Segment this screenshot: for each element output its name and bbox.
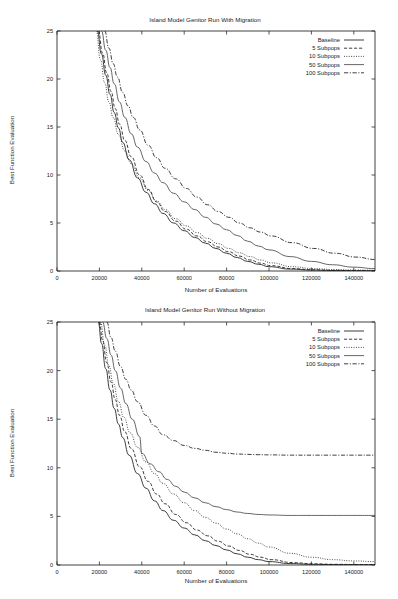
x-tick-label: 100000 bbox=[260, 275, 279, 281]
legend-label: 50 Subpops bbox=[309, 353, 340, 359]
y-tick-label: 0 bbox=[50, 562, 53, 568]
x-tick-label: 20000 bbox=[92, 275, 108, 281]
x-tick-label: 60000 bbox=[176, 569, 192, 575]
legend-bottom: Baseline5 Subpops10 Subpops50 Subpops100… bbox=[306, 328, 364, 367]
x-tick-label: 40000 bbox=[134, 569, 150, 575]
y-tick-label: 5 bbox=[50, 513, 53, 519]
x-tick-label: 100000 bbox=[260, 569, 279, 575]
y-tick-label: 5 bbox=[50, 220, 53, 226]
chart-svg-top: Island Model Genitor Run With Migration … bbox=[0, 0, 398, 299]
y-tick-label: 15 bbox=[47, 416, 53, 422]
x-tick-label: 80000 bbox=[219, 275, 235, 281]
y-tick-label: 10 bbox=[47, 465, 53, 471]
chart-svg-bottom: Island Model Genitor Run Without Migrati… bbox=[0, 295, 398, 599]
legend-label: 100 Subpops bbox=[306, 361, 340, 367]
x-tick-label: 140000 bbox=[344, 569, 363, 575]
chart-title-bottom: Island Model Genitor Run Without Migrati… bbox=[145, 306, 266, 313]
y-tick-label: 25 bbox=[47, 28, 53, 34]
x-axis-label-top: Number of Evaluations bbox=[185, 286, 248, 293]
y-tick-label: 0 bbox=[50, 268, 53, 274]
y-axis-label-top: Best Function Evaluation bbox=[8, 115, 15, 184]
y-tick-label: 20 bbox=[47, 368, 53, 374]
figure-page: Island Model Genitor Run With Migration … bbox=[0, 0, 398, 599]
x-tick-label: 20000 bbox=[92, 569, 108, 575]
legend-top: Baseline5 Subpops10 Subpops50 Subpops100… bbox=[306, 37, 364, 76]
x-tick-label: 140000 bbox=[344, 275, 363, 281]
legend-label: 10 Subpops bbox=[309, 344, 340, 350]
x-tick-label: 40000 bbox=[134, 275, 150, 281]
legend-label: 5 Subpops bbox=[312, 45, 340, 51]
y-tick-label: 15 bbox=[47, 124, 53, 130]
legend-label: 10 Subpops bbox=[309, 53, 340, 59]
chart-with-migration: Island Model Genitor Run With Migration … bbox=[0, 0, 398, 299]
legend-label: 5 Subpops bbox=[312, 336, 340, 342]
x-tick-label: 120000 bbox=[302, 275, 321, 281]
legend-label: 100 Subpops bbox=[306, 70, 340, 76]
chart-without-migration: Island Model Genitor Run Without Migrati… bbox=[0, 295, 398, 599]
legend-label: Baseline bbox=[318, 328, 340, 334]
x-tick-label: 60000 bbox=[176, 275, 192, 281]
x-tick-label: 120000 bbox=[302, 569, 321, 575]
legend-label: 50 Subpops bbox=[309, 62, 340, 68]
y-axis-label-bottom: Best Function Evaluation bbox=[8, 408, 15, 477]
series-line bbox=[103, 322, 375, 515]
y-tick-label: 10 bbox=[47, 172, 53, 178]
legend-label: Baseline bbox=[318, 37, 340, 43]
chart-title-top: Island Model Genitor Run With Migration bbox=[149, 16, 261, 23]
x-axis-label-bottom: Number of Evaluations bbox=[185, 577, 248, 584]
x-tick-label: 0 bbox=[55, 275, 58, 281]
y-tick-label: 25 bbox=[47, 319, 53, 325]
x-tick-label: 80000 bbox=[219, 569, 235, 575]
x-tick-label: 0 bbox=[55, 569, 58, 575]
y-tick-label: 20 bbox=[47, 76, 53, 82]
